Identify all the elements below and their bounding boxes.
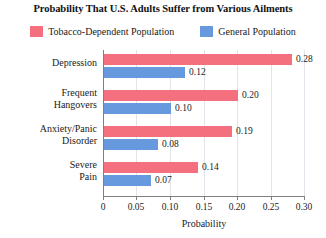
category-label-frequent-hangovers: Frequent Hangovers	[0, 87, 97, 110]
x-tick-label-030: 0.30	[296, 202, 313, 212]
x-tick-mark-005	[136, 196, 137, 200]
legend-swatch-general-population	[200, 26, 213, 37]
legend-swatch-tobacco-dependent	[30, 26, 43, 37]
x-tick-mark-025	[271, 196, 272, 200]
bar-general-anxiety-panic-disorder[interactable]	[104, 139, 158, 150]
category-label-line-1: Severe	[70, 159, 97, 170]
chart-legend: Tobacco-Dependent Population General Pop…	[0, 26, 326, 37]
x-tick-mark-0	[103, 196, 104, 200]
x-tick-label-020: 0.20	[229, 202, 246, 212]
legend-entry-general-population[interactable]: General Population	[200, 26, 295, 37]
bar-general-severe-pain[interactable]	[104, 175, 151, 186]
gridline-030	[304, 50, 305, 196]
x-tick-label-0: 0	[101, 202, 106, 212]
x-tick-label-010: 0.10	[162, 202, 179, 212]
legend-entry-tobacco-dependent[interactable]: Tobacco-Dependent Population	[30, 26, 174, 37]
bar-general-frequent-hangovers[interactable]	[104, 103, 171, 114]
category-label-severe-pain: Severe Pain	[0, 159, 97, 182]
bar-tobacco-frequent-hangovers[interactable]	[104, 90, 238, 101]
x-axis-title: Probability	[103, 218, 305, 229]
bar-tobacco-anxiety-panic-disorder[interactable]	[104, 126, 232, 137]
category-label-line-2: Pain	[79, 171, 97, 182]
bar-general-depression[interactable]	[104, 67, 185, 78]
x-tick-mark-010	[170, 196, 171, 200]
bar-value-general-anxiety-panic-disorder: 0.08	[162, 139, 179, 150]
category-label-line-1: Anxiety/Panic	[40, 123, 97, 134]
x-tick-mark-020	[237, 196, 238, 200]
category-label-line-2: Disorder	[62, 135, 97, 146]
bar-value-tobacco-frequent-hangovers: 0.20	[242, 90, 259, 101]
legend-label-tobacco-dependent: Tobacco-Dependent Population	[48, 26, 174, 37]
bar-tobacco-depression[interactable]	[104, 54, 292, 65]
x-tick-label-025: 0.25	[263, 202, 280, 212]
category-label-line-1: Depression	[52, 57, 97, 68]
x-tick-label-005: 0.05	[128, 202, 145, 212]
bar-value-tobacco-severe-pain: 0.14	[202, 162, 219, 173]
plot-wrapper: Depression 0.28 0.12 Frequent Hangovers …	[0, 48, 326, 238]
x-tick-label-015: 0.15	[196, 202, 213, 212]
bar-value-general-frequent-hangovers: 0.10	[175, 103, 192, 114]
category-label-anxiety-panic-disorder: Anxiety/Panic Disorder	[0, 123, 97, 146]
x-tick-mark-030	[304, 196, 305, 200]
legend-label-general-population: General Population	[218, 26, 295, 37]
category-label-line-2: Hangovers	[54, 99, 97, 110]
chart-container: Probability That U.S. Adults Suffer from…	[0, 0, 326, 238]
bar-value-general-severe-pain: 0.07	[155, 175, 172, 186]
bar-value-general-depression: 0.12	[189, 67, 206, 78]
x-tick-mark-015	[204, 196, 205, 200]
bar-value-tobacco-anxiety-panic-disorder: 0.19	[236, 126, 253, 137]
category-label-depression: Depression	[0, 57, 97, 69]
chart-title: Probability That U.S. Adults Suffer from…	[0, 3, 326, 14]
gridline-020	[237, 50, 238, 196]
y-axis-line	[103, 50, 104, 197]
gridline-025	[271, 50, 272, 196]
bar-tobacco-severe-pain[interactable]	[104, 162, 198, 173]
bar-value-tobacco-depression: 0.28	[296, 54, 313, 65]
category-label-line-1: Frequent	[61, 87, 97, 98]
